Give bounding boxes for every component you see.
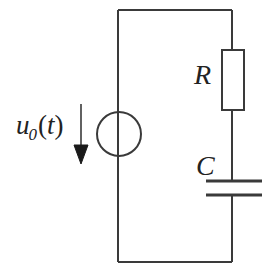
resistor-box bbox=[222, 50, 244, 110]
label-source-subscript: 0 bbox=[29, 125, 38, 144]
label-resistor: R bbox=[194, 61, 211, 89]
label-capacitor: C bbox=[196, 152, 215, 180]
label-source-variable: u bbox=[16, 110, 30, 140]
label-source-paren-open: ( bbox=[38, 110, 47, 140]
label-source-argument: t bbox=[47, 110, 55, 140]
circuit-diagram: u0(t) R C bbox=[0, 0, 279, 270]
label-source-paren-close: ) bbox=[55, 110, 64, 140]
label-source-voltage: u0(t) bbox=[16, 112, 64, 139]
voltage-arrow-head-icon bbox=[74, 145, 88, 164]
